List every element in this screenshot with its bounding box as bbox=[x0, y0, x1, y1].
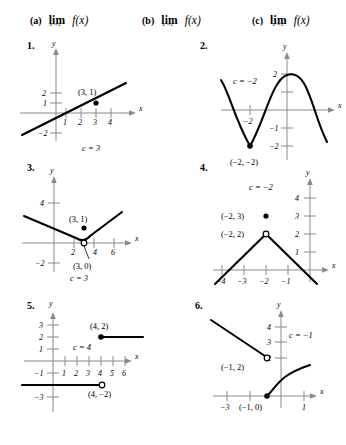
x-axis-label-4: x bbox=[331, 261, 336, 270]
open-point-3-0 bbox=[81, 240, 87, 246]
y-tick-label-4-3: 4 bbox=[40, 199, 44, 208]
y-axis-label-1: y bbox=[51, 39, 56, 48]
x-tick-label-2-3: 2 bbox=[71, 248, 75, 257]
x-axis-arrow-5 bbox=[125, 358, 132, 364]
function-notation-c: f(x) bbox=[294, 14, 310, 26]
lim-subscript-b: x→c⁻ bbox=[162, 20, 177, 27]
leader-line-3 bbox=[84, 246, 89, 259]
x-tick-label-3-1: 3 bbox=[92, 118, 97, 127]
filled-point-3-1 bbox=[93, 100, 98, 105]
c-label-6: c = −1 bbox=[289, 330, 313, 340]
x-tick-label-1-1: 1 bbox=[63, 118, 67, 127]
y-axis-label-4: y bbox=[305, 168, 310, 177]
problem-number-1: 1. bbox=[27, 40, 35, 51]
x-tick-label-4-5: 4 bbox=[98, 369, 102, 378]
y-tick-label-neg3-5: −3 bbox=[34, 393, 43, 402]
filled-point-neg1-0 bbox=[264, 393, 270, 399]
y-tick-label-2-5: 2 bbox=[39, 333, 43, 342]
x-axis-arrow-6 bbox=[310, 393, 317, 399]
header-tag-a: (a) bbox=[30, 15, 42, 26]
x-tick-label-1-6: 1 bbox=[302, 403, 306, 412]
y-tick-label-2-6: 2 bbox=[267, 354, 271, 363]
x-axis-label-6: x bbox=[319, 387, 324, 396]
y-axis-label-3: y bbox=[49, 166, 54, 175]
y-axis-arrow-2 bbox=[284, 52, 290, 59]
line-graph-1 bbox=[22, 83, 126, 135]
point-label-3-1: (3, 1) bbox=[78, 87, 97, 97]
x-tick-label-neg3-4: −3 bbox=[237, 277, 246, 286]
graph-6: x y 4 3 2 −3 1 (−1, 2) (−1, 0) c = −1 bbox=[173, 298, 346, 445]
y-axis-label-6: y bbox=[276, 300, 281, 309]
c-label-1: c = 3 bbox=[82, 143, 100, 153]
x-tick-label-6-5: 6 bbox=[122, 369, 126, 378]
x-axis-arrow-3 bbox=[125, 240, 132, 246]
point-label-4-neg2: (4, −2) bbox=[88, 389, 111, 399]
y-axis-arrow-3 bbox=[51, 176, 57, 183]
x-tick-label-2-1: 2 bbox=[78, 118, 82, 127]
graph-2: x y −2 2 −1 −2 (−2, −2) c = −2 bbox=[173, 38, 346, 170]
y-tick-label-neg2-3: −2 bbox=[35, 259, 44, 268]
worksheet-page: (a) lim x→c⁺ f(x) (b) lim x→c⁻ f(x) (c) … bbox=[0, 0, 346, 445]
y-tick-label-3-5: 3 bbox=[38, 321, 43, 330]
x-tick-label-6-3: 6 bbox=[111, 248, 115, 257]
descending-segment-6 bbox=[211, 320, 265, 356]
y-axis-arrow-1 bbox=[53, 48, 59, 55]
x-tick-label-5-5: 5 bbox=[110, 369, 114, 378]
y-tick-label-1-4: 1 bbox=[295, 248, 299, 257]
header-item-b: (b) lim x→c⁻ f(x) bbox=[142, 10, 201, 28]
open-point-4-neg2 bbox=[99, 382, 105, 388]
y-axis-arrow-5 bbox=[50, 312, 56, 319]
function-notation-b: f(x) bbox=[185, 14, 201, 26]
graph-5: x y 3 2 1 −1 −3 1 2 3 4 5 6 (4, 2) (4, −… bbox=[0, 298, 173, 445]
c-label-4: c = −2 bbox=[249, 182, 273, 192]
graph-3: x y 4 −2 2 4 6 (3, 1) (3, 0) c = 3 bbox=[0, 160, 173, 295]
limit-header-row: (a) lim x→c⁺ f(x) (b) lim x→c⁻ f(x) (c) … bbox=[0, 8, 346, 36]
header-tag-c: (c) bbox=[252, 15, 263, 26]
point-label-neg1-0: (−1, 0) bbox=[239, 402, 262, 412]
open-point-neg2-2 bbox=[263, 231, 269, 237]
y-tick-label-neg2-2: −2 bbox=[269, 142, 278, 151]
filled-point-neg2-neg2 bbox=[247, 143, 253, 149]
x-tick-label-3-5: 3 bbox=[85, 369, 90, 378]
point-label-neg2-2: (−2, 2) bbox=[221, 229, 244, 239]
lim-subscript-a: x→c⁺ bbox=[50, 20, 65, 27]
x-tick-label-neg4-4: −4 bbox=[216, 277, 225, 286]
y-tick-label-4-4: 4 bbox=[295, 194, 299, 203]
y-tick-label-neg1-2: −1 bbox=[269, 124, 278, 133]
x-tick-label-4-1: 4 bbox=[108, 118, 112, 127]
filled-point-neg2-3 bbox=[263, 213, 268, 218]
x-tick-label-4-3: 4 bbox=[93, 248, 97, 257]
x-tick-label-neg3-6: −3 bbox=[220, 403, 229, 412]
y-axis-label-5: y bbox=[48, 299, 53, 308]
y-axis-label-2: y bbox=[282, 42, 287, 51]
point-label-neg1-2: (−1, 2) bbox=[221, 362, 244, 372]
x-tick-label-2-5: 2 bbox=[74, 369, 78, 378]
point-label-3-0: (3, 0) bbox=[73, 261, 92, 271]
c-label-2: c = −2 bbox=[233, 76, 257, 86]
problem-number-4: 4. bbox=[200, 162, 208, 173]
problem-number-5: 5. bbox=[27, 300, 35, 311]
problem-number-3: 3. bbox=[27, 162, 35, 173]
x-axis-label-5: x bbox=[134, 352, 139, 361]
x-tick-label-neg1-4: −1 bbox=[281, 277, 290, 286]
filled-point-4-2 bbox=[98, 334, 104, 340]
y-tick-label-1-1: 1 bbox=[43, 99, 47, 108]
y-axis-arrow-4 bbox=[307, 178, 313, 185]
problem-panel-3: 3. x y 4 −2 2 4 bbox=[0, 160, 173, 295]
filled-point-3-1-panel3 bbox=[81, 225, 86, 230]
header-item-a: (a) lim x→c⁺ f(x) bbox=[30, 10, 88, 28]
problem-panel-6: 6. x y 4 3 2 −3 bbox=[173, 298, 346, 445]
problem-panel-1: 1. x y 2 1 −2 1 2 3 bbox=[0, 38, 173, 155]
x-axis-label-2: x bbox=[337, 101, 342, 110]
y-tick-label-2-2: 2 bbox=[273, 70, 277, 79]
x-axis-label-3: x bbox=[134, 234, 139, 243]
y-tick-label-neg2-1: −2 bbox=[38, 129, 47, 138]
y-tick-label-2-1: 2 bbox=[42, 89, 46, 98]
c-label-5: c = 4 bbox=[73, 342, 92, 352]
point-label-neg2-3: (−2, 3) bbox=[221, 211, 244, 221]
y-tick-label-neg1-5: −1 bbox=[34, 369, 43, 378]
problem-number-6: 6. bbox=[195, 300, 203, 311]
problem-panel-4: 4. x y 4 3 bbox=[173, 160, 346, 295]
limit-expression-b: lim x→c⁻ bbox=[161, 10, 178, 28]
point-label-3-1-panel3: (3, 1) bbox=[69, 214, 88, 224]
